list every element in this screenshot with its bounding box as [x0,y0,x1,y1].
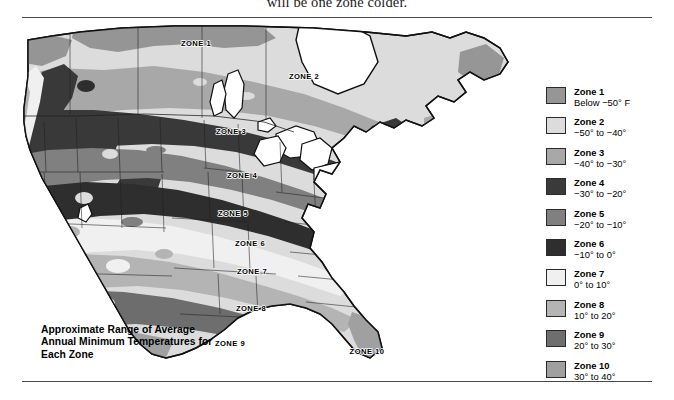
legend-row-zone-4: Zone 4−30° to −20° [546,178,668,208]
legend-text-zone-7: Zone 70° to 10° [574,268,668,291]
legend-text-zone-8: Zone 810° to 20° [574,299,668,322]
legend-swatch-zone-1 [546,87,566,104]
legend-row-zone-6: Zone 6−10° to 0° [546,239,668,269]
legend-range-zone-1: Below −50° F [574,97,668,109]
legend-swatch-zone-9 [546,330,566,347]
zone-pocket-f [121,217,143,227]
legend-title-zone-4: Zone 4 [574,177,668,188]
legend-row-zone-3: Zone 3−40° to −30° [546,148,668,178]
zone-northeast-mid [390,140,434,180]
legend-range-zone-2: −50° to −40° [574,127,668,139]
zone-atlantic-coast [380,248,412,284]
legend-title-zone-9: Zone 9 [574,329,668,340]
legend-row-zone-2: Zone 2−50° to −40° [546,117,668,147]
map-zone-label-4: ZONE 4 [227,171,257,180]
legend-title-zone-2: Zone 2 [574,116,668,127]
legend-title-zone-6: Zone 6 [574,238,668,249]
legend-title-zone-10: Zone 10 [574,360,668,371]
map-zone-label-2: ZONE 2 [289,72,319,81]
legend-row-zone-7: Zone 70° to 10° [546,269,668,299]
map-caption: Approximate Range of Average Annual Mini… [41,324,221,361]
legend-swatch-zone-2 [546,117,566,134]
page-running-text: will be one zone colder. [0,0,674,11]
legend-swatch-zone-8 [546,300,566,317]
legend-text-zone-5: Zone 5−20° to −10° [574,208,668,231]
map-zone-label-5: ZONE 5 [218,209,248,218]
map-zone-label-8: ZONE 8 [236,304,266,313]
legend-title-zone-7: Zone 7 [574,268,668,279]
legend-row-zone-5: Zone 5−20° to −10° [546,209,668,239]
legend-row-zone-9: Zone 920° to 30° [546,330,668,360]
zone-pocket-g [166,193,182,203]
legend-range-zone-5: −20° to −10° [574,219,668,231]
legend-text-zone-9: Zone 920° to 30° [574,329,668,352]
legend-row-zone-8: Zone 810° to 20° [546,300,668,330]
legend-text-zone-4: Zone 4−30° to −20° [574,177,668,200]
zone-pocket-d [146,146,166,154]
legend-swatch-zone-10 [546,361,566,378]
zone-appalachian [336,200,376,240]
legend-swatch-zone-7 [546,269,566,286]
legend-swatch-zone-6 [546,239,566,256]
legend-range-zone-6: −10° to 0° [574,249,668,261]
legend-range-zone-8: 10° to 20° [574,310,668,322]
zone-pocket-l [193,78,207,86]
zone-pocket-a [77,80,95,92]
zone-pocket-c [102,149,118,159]
legend-text-zone-1: Zone 1Below −50° F [574,86,668,109]
legend-range-zone-3: −40° to −30° [574,158,668,170]
divider-bottom [22,381,652,382]
legend-text-zone-10: Zone 1030° to 40° [574,360,668,383]
map-zone-label-3: ZONE 3 [216,127,246,136]
legend-text-zone-3: Zone 3−40° to −30° [574,147,668,170]
legend-swatch-zone-4 [546,178,566,195]
legend-row-zone-10: Zone 1030° to 40° [546,361,668,391]
zone-pocket-b [120,91,144,101]
figure-hardiness-zone-map: ZONE 1ZONE 2ZONE 3ZONE 4ZONE 5ZONE 6ZONE… [0,18,674,380]
legend-range-zone-9: 20° to 30° [574,340,668,352]
legend-range-zone-7: 0° to 10° [574,279,668,291]
zone-pocket-i [106,259,130,273]
legend-title-zone-1: Zone 1 [574,86,668,97]
zone-map: ZONE 1ZONE 2ZONE 3ZONE 4ZONE 5ZONE 6ZONE… [14,22,532,372]
legend-range-zone-4: −30° to −20° [574,188,668,200]
map-legend: Zone 1Below −50° FZone 2−50° to −40°Zone… [546,87,668,391]
legend-text-zone-2: Zone 2−50° to −40° [574,116,668,139]
map-zone-label-1: ZONE 1 [181,39,211,48]
legend-title-zone-3: Zone 3 [574,147,668,158]
legend-swatch-zone-5 [546,209,566,226]
zone-pocket-e [75,192,93,204]
legend-text-zone-6: Zone 6−10° to 0° [574,238,668,261]
map-zone-label-6: ZONE 6 [235,239,265,248]
zone-appalachian2 [360,228,394,264]
legend-title-zone-8: Zone 8 [574,299,668,310]
legend-row-zone-1: Zone 1Below −50° F [546,87,668,117]
zone-coastal-strip-6 [14,206,38,290]
zone-pocket-j [155,249,173,259]
legend-swatch-zone-3 [546,148,566,165]
map-zone-label-7: ZONE 7 [237,267,267,276]
map-zone-label-10: ZONE 10 [350,347,385,356]
legend-title-zone-5: Zone 5 [574,208,668,219]
